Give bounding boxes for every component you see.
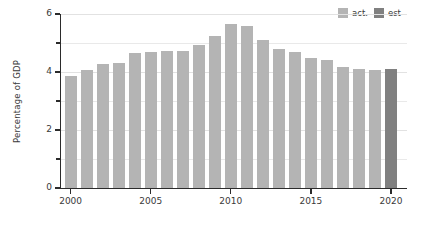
gridline-y-6 bbox=[61, 14, 407, 15]
y-axis-title: Percentage of GDP bbox=[6, 14, 28, 189]
bar-2013[interactable] bbox=[273, 49, 285, 188]
y-tick-4 bbox=[55, 71, 60, 72]
y-tick-minor-5 bbox=[56, 42, 60, 43]
y-tick-label-2: 2 bbox=[36, 125, 52, 134]
bar-2011[interactable] bbox=[241, 26, 253, 188]
bar-2000[interactable] bbox=[65, 76, 77, 188]
bar-2010[interactable] bbox=[225, 24, 237, 188]
plot-area bbox=[61, 14, 407, 188]
y-tick-label-4: 4 bbox=[36, 67, 52, 76]
bar-2017[interactable] bbox=[337, 67, 349, 188]
bar-2015[interactable] bbox=[305, 58, 317, 188]
bar-2004[interactable] bbox=[129, 53, 141, 188]
bar-2016[interactable] bbox=[321, 60, 333, 188]
x-tick-2020 bbox=[390, 189, 391, 194]
y-tick-label-6: 6 bbox=[36, 9, 52, 18]
y-tick-label-0: 0 bbox=[36, 183, 52, 192]
bar-2008[interactable] bbox=[193, 45, 205, 188]
bar-2014[interactable] bbox=[289, 52, 301, 188]
bar-2005[interactable] bbox=[145, 52, 157, 188]
x-tick-2010 bbox=[230, 189, 231, 194]
bar-2012[interactable] bbox=[257, 40, 269, 188]
bar-chart-figure: act. est Percentage of GDP 0246200020052… bbox=[0, 0, 439, 226]
x-tick-label-2000: 2000 bbox=[59, 197, 82, 206]
bar-2003[interactable] bbox=[113, 63, 125, 188]
y-tick-6 bbox=[55, 13, 60, 14]
bar-2007[interactable] bbox=[177, 51, 189, 188]
x-tick-2000 bbox=[70, 189, 71, 194]
x-tick-label-2005: 2005 bbox=[139, 197, 162, 206]
bar-2001[interactable] bbox=[81, 70, 93, 188]
bar-2020[interactable] bbox=[385, 69, 397, 188]
bar-2019[interactable] bbox=[369, 70, 381, 188]
y-tick-0 bbox=[55, 187, 60, 188]
x-tick-2015 bbox=[310, 189, 311, 194]
y-tick-2 bbox=[55, 129, 60, 130]
y-tick-minor-1 bbox=[56, 158, 60, 159]
x-tick-2005 bbox=[150, 189, 151, 194]
bar-2018[interactable] bbox=[353, 69, 365, 188]
x-tick-label-2015: 2015 bbox=[299, 197, 322, 206]
x-tick-label-2010: 2010 bbox=[219, 197, 242, 206]
y-axis-title-wrapper: Percentage of GDP bbox=[6, 14, 28, 189]
bar-2009[interactable] bbox=[209, 36, 221, 188]
x-axis-spine bbox=[60, 188, 407, 189]
bar-2006[interactable] bbox=[161, 51, 173, 188]
y-tick-minor-3 bbox=[56, 100, 60, 101]
bar-2002[interactable] bbox=[97, 64, 109, 188]
x-tick-label-2020: 2020 bbox=[380, 197, 403, 206]
